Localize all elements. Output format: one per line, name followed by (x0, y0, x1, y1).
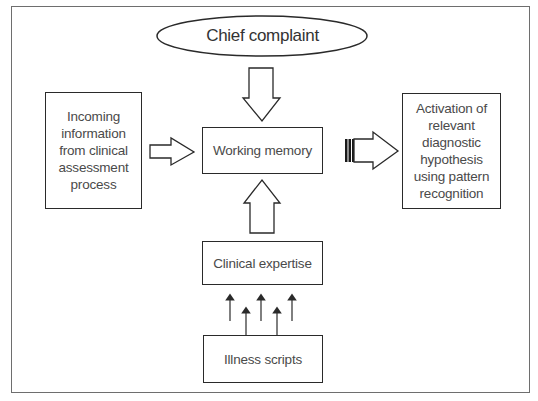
working-memory-box: Working memory (202, 127, 323, 174)
small-up-arrows-icon (230, 297, 292, 336)
incoming-line: process (58, 176, 128, 193)
incoming-line: from clinical (58, 142, 128, 159)
incoming-line: assessment (58, 159, 128, 176)
up-arrow-icon (244, 180, 280, 233)
incoming-line: information (58, 125, 128, 142)
right-arrow-icon (150, 138, 194, 165)
incoming-line: Incoming (58, 108, 128, 125)
clinical-expertise-box: Clinical expertise (202, 241, 323, 285)
activation-line: recognition (414, 185, 489, 202)
activation-box: Activation of relevant diagnostic hypoth… (402, 93, 501, 209)
chief-complaint-label: Chief complaint (157, 16, 368, 56)
illness-scripts-box: Illness scripts (203, 335, 323, 383)
striped-right-arrow-icon (345, 132, 398, 169)
activation-line: using pattern (414, 168, 489, 185)
activation-line: hypothesis (414, 151, 489, 168)
incoming-information-box: Incoming information from clinical asses… (45, 92, 142, 209)
activation-line: relevant (414, 117, 489, 134)
working-memory-label: Working memory (213, 142, 312, 159)
activation-line: Activation of (414, 100, 489, 117)
illness-scripts-label: Illness scripts (224, 351, 302, 368)
down-arrow-icon (243, 68, 280, 121)
clinical-expertise-label: Clinical expertise (213, 255, 311, 272)
activation-line: diagnostic (414, 134, 489, 151)
